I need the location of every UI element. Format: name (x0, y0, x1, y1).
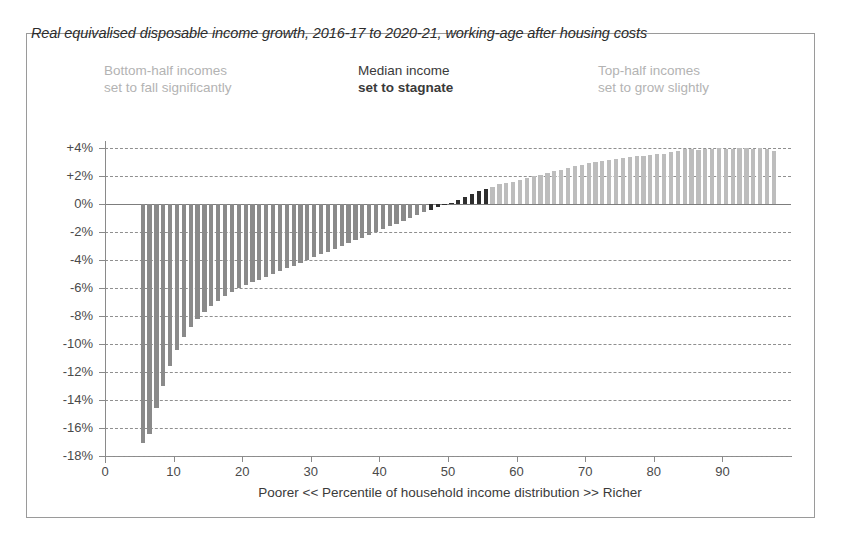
bar (422, 204, 426, 212)
bar (319, 204, 323, 254)
bar (772, 151, 776, 204)
y-axis-label: -6% (37, 280, 93, 295)
y-axis-label: +4% (37, 140, 93, 155)
bar (223, 204, 227, 296)
bar (154, 204, 158, 408)
bar (683, 149, 687, 204)
bar (298, 204, 302, 263)
bar (628, 157, 632, 204)
bar (367, 204, 371, 235)
bar (532, 176, 536, 204)
y-tick (99, 344, 106, 345)
x-axis-label: 20 (222, 464, 262, 479)
bar (374, 204, 378, 232)
y-axis-label: +2% (37, 168, 93, 183)
annotation-top-half-line1: Top-half incomes (598, 62, 709, 79)
x-axis-label: 60 (497, 464, 537, 479)
gridline--16% (105, 428, 791, 429)
bar (662, 154, 666, 204)
bar (216, 204, 220, 301)
bar (271, 204, 275, 274)
bar (484, 189, 488, 204)
y-axis-label: -14% (37, 392, 93, 407)
bar (614, 159, 618, 204)
x-tick (379, 456, 380, 462)
annotation-top-half-line2: set to grow slightly (598, 79, 709, 96)
y-axis-label: -16% (37, 420, 93, 435)
bar (525, 178, 529, 204)
bar (676, 151, 680, 204)
bar (724, 149, 728, 204)
bar (278, 204, 282, 271)
x-axis-label: 70 (565, 464, 605, 479)
bar (593, 162, 597, 204)
x-tick (311, 456, 312, 462)
bar (257, 204, 261, 280)
annotation-bottom-half-line2: set to fall significantly (104, 79, 232, 96)
x-tick (585, 456, 586, 462)
bar (504, 183, 508, 204)
bar (758, 148, 762, 204)
bar (429, 204, 433, 210)
gridline--14% (105, 400, 791, 401)
bar (696, 150, 700, 204)
bar (737, 148, 741, 204)
x-axis-label: 30 (291, 464, 331, 479)
bar (573, 166, 577, 204)
gridline--2% (105, 232, 791, 233)
bar (545, 173, 549, 204)
y-axis-label: -12% (37, 364, 93, 379)
bar (580, 165, 584, 204)
bar (607, 160, 611, 204)
bar (305, 204, 309, 260)
bar (710, 149, 714, 204)
bar (388, 204, 392, 226)
bar (655, 154, 659, 204)
bar (168, 204, 172, 366)
bar (381, 204, 385, 229)
y-axis-label: -2% (37, 224, 93, 239)
bar (641, 156, 645, 204)
bar (161, 204, 165, 386)
chart-title: Real equivalised disposable income growt… (31, 25, 771, 41)
bar (765, 149, 769, 204)
bar (477, 191, 481, 204)
bar (449, 203, 453, 204)
bar (490, 187, 494, 205)
y-axis-label: -10% (37, 336, 93, 351)
bar (326, 204, 330, 252)
bar (566, 168, 570, 204)
x-axis-title: Poorer << Percentile of household income… (105, 485, 795, 500)
bar (600, 161, 604, 204)
bar (470, 194, 474, 204)
bar (436, 204, 440, 207)
bar (189, 204, 193, 327)
bar (552, 171, 556, 204)
bar (401, 204, 405, 221)
bar (538, 175, 542, 204)
gridline--10% (105, 344, 791, 345)
x-axis-label: 90 (702, 464, 742, 479)
y-tick (99, 204, 106, 205)
x-tick (105, 456, 106, 462)
bar (587, 163, 591, 204)
y-axis-label: -4% (37, 252, 93, 267)
x-tick (517, 456, 518, 462)
y-tick (99, 428, 106, 429)
bar (559, 170, 563, 204)
bar (182, 204, 186, 337)
bar (635, 156, 639, 204)
bar (518, 180, 522, 204)
x-tick (654, 456, 655, 462)
bar (312, 204, 316, 257)
y-tick (99, 176, 106, 177)
y-tick (99, 372, 106, 373)
x-tick (242, 456, 243, 462)
x-tick (448, 456, 449, 462)
gridline--6% (105, 288, 791, 289)
bar (141, 204, 145, 443)
x-axis-label: 0 (85, 464, 125, 479)
y-tick (99, 260, 106, 261)
bar (333, 204, 337, 249)
bar (456, 200, 460, 204)
